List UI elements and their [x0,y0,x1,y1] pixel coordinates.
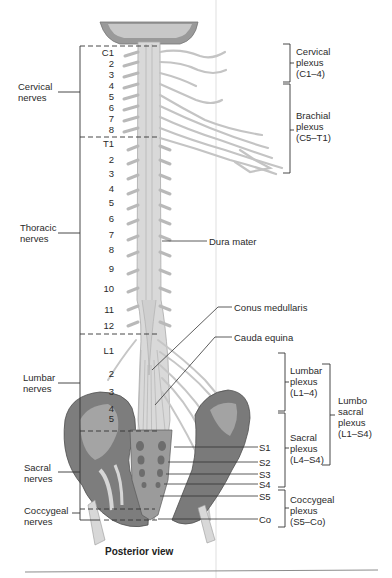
level-t6: 6 [92,214,114,224]
figure-caption: Posterior view [105,546,173,557]
label-conus-medullaris: Conus medullaris [234,302,307,313]
label-sacral-plexus: Sacral plexus (L4–S4) [290,432,324,465]
label-cervical-plexus: Cervical plexus (C1–4) [296,46,330,79]
bottom-rule [25,570,378,572]
label-coccygeal-nerves: Coccygeal nerves [24,505,68,527]
skull-base-icon [100,22,198,44]
level-t5: 5 [92,198,114,208]
level-s5: S5 [259,491,271,502]
level-t3: 3 [92,169,114,179]
label-coccygeal-plexus: Coccygeal plexus (S5–Co) [290,494,334,527]
label-sacral-nerves: Sacral nerves [24,462,53,484]
level-c1: C1 [92,48,114,58]
level-l3: 3 [92,387,114,397]
label-brachial-plexus: Brachial plexus (C5–T1) [296,110,331,143]
label-cauda-equina: Cauda equina [234,332,293,343]
level-c2: 2 [92,59,114,69]
label-lumbosacral-plexus: Lumbo sacral plexus (L1–S4) [338,395,372,439]
level-c7: 7 [92,114,114,124]
level-t10: 10 [92,284,114,294]
level-c8: 8 [92,125,114,135]
label-thoracic-nerves: Thoracic nerves [20,222,56,244]
level-s4: S4 [259,479,271,490]
level-c5: 5 [92,92,114,102]
spinal-nerves-diagram: Cervical nerves Thoracic nerves Lumbar n… [0,0,392,578]
label-lumbar-plexus: Lumbar plexus (L1–4) [290,365,322,398]
level-l1: L1 [92,346,114,356]
label-lumbar-nerves: Lumbar nerves [23,372,55,394]
level-t8: 8 [92,245,114,255]
level-t2: 2 [92,155,114,165]
level-t1: T1 [92,139,114,149]
level-t12: 12 [92,321,114,331]
level-c6: 6 [92,103,114,113]
level-t9: 9 [92,264,114,274]
level-co: Co [259,514,271,525]
level-t4: 4 [92,184,114,194]
level-t11: 11 [92,305,114,315]
anatomy-illustration [0,0,392,578]
level-t7: 7 [92,230,114,240]
level-c4: 4 [92,81,114,91]
level-c3: 3 [92,70,114,80]
level-s1: S1 [259,442,271,453]
brachial-plexus-icon [160,51,282,174]
level-l5: 5 [92,414,114,424]
level-l2: 2 [92,369,114,379]
label-cervical-nerves: Cervical nerves [18,81,52,103]
label-dura-mater: Dura mater [209,236,257,247]
level-s2: S2 [259,457,271,468]
